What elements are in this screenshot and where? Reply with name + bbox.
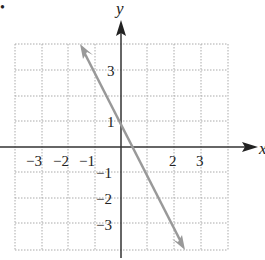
x-tick: −3 (26, 153, 42, 169)
graph-figure: • y x −3 −2 −1 2 3 3 1 −1 −2 −3 (0, 0, 265, 260)
y-axis-label: y (114, 0, 124, 18)
x-tick: 2 (169, 153, 177, 169)
axes (0, 30, 248, 258)
y-tick: −1 (96, 165, 112, 181)
y-tick: −3 (96, 217, 112, 233)
bullet-mark: • (0, 0, 5, 15)
x-tick: −1 (79, 153, 95, 169)
y-tick: −2 (96, 191, 112, 207)
x-axis-label: x (258, 139, 265, 158)
x-tick: 3 (196, 153, 204, 169)
y-tick: 1 (107, 114, 115, 130)
x-tick: −2 (53, 153, 69, 169)
y-tick: 3 (107, 63, 115, 79)
